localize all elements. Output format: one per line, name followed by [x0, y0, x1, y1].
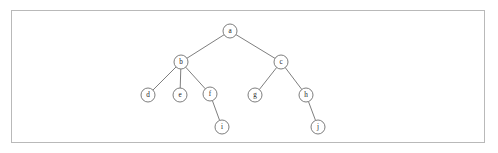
tree-node-f[interactable]: f: [203, 87, 217, 101]
tree-node-j[interactable]: j: [311, 120, 325, 134]
tree-node-i[interactable]: i: [215, 120, 229, 134]
tree-edge-c-h: [285, 68, 302, 90]
tree-edge-a-c: [236, 35, 275, 59]
tree-node-c[interactable]: c: [274, 55, 288, 69]
tree-node-label-i: i: [221, 123, 223, 131]
tree-node-label-h: h: [304, 91, 308, 99]
tree-node-label-g: g: [253, 91, 257, 99]
tree-node-b[interactable]: b: [174, 55, 188, 69]
tree-diagram-canvas: abcdefghij: [0, 0, 498, 153]
tree-edge-f-i: [212, 101, 219, 121]
tree-node-layer: abcdefghij: [141, 24, 325, 134]
tree-node-label-d: d: [146, 91, 150, 99]
tree-edge-h-j: [308, 102, 315, 121]
figure-root: abcdefghij: [0, 0, 498, 153]
tree-node-h[interactable]: h: [299, 88, 313, 102]
tree-edge-b-d: [153, 67, 176, 90]
tree-node-label-c: c: [279, 58, 282, 66]
tree-node-label-b: b: [179, 58, 183, 66]
tree-node-d[interactable]: d: [141, 88, 155, 102]
tree-node-label-e: e: [178, 91, 181, 99]
tree-node-label-j: j: [316, 123, 319, 131]
tree-node-a[interactable]: a: [223, 24, 237, 38]
tree-node-g[interactable]: g: [248, 88, 262, 102]
tree-edge-c-g: [259, 68, 276, 90]
tree-edge-layer: [153, 35, 316, 121]
tree-edge-a-b: [187, 35, 224, 59]
tree-edge-b-e: [180, 69, 181, 88]
tree-node-e[interactable]: e: [173, 88, 187, 102]
tree-edge-b-f: [186, 67, 206, 89]
